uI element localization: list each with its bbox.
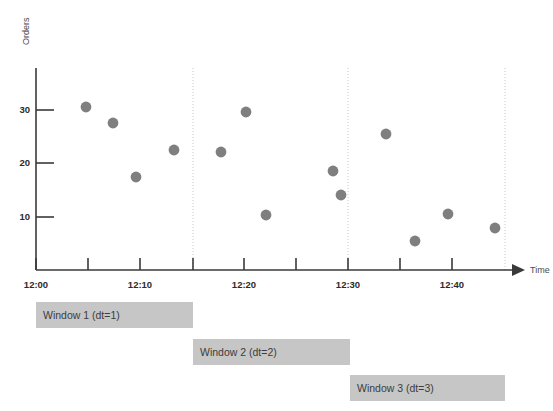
data-point [443, 209, 454, 220]
window-boundary-lines [193, 68, 505, 270]
y-tick-label-10: 10 [10, 212, 30, 222]
data-point [241, 107, 252, 118]
x-tick-label-1240: 12:40 [440, 280, 464, 290]
x-tick-label-1220: 12:20 [232, 280, 256, 290]
y-tick-label-30: 30 [10, 105, 30, 115]
data-point [261, 210, 272, 221]
y-axis [36, 68, 54, 270]
y-axis-title: Orders [22, 17, 31, 45]
x-axis [36, 258, 525, 276]
data-point [81, 102, 92, 113]
data-point [328, 166, 339, 177]
window-bar-1: Window 1 (dt=1) [36, 302, 193, 328]
data-point [216, 147, 227, 158]
y-tick-label-20: 20 [10, 158, 30, 168]
window-bar-3-label: Window 3 (dt=3) [357, 383, 434, 394]
x-axis-title: Time [530, 266, 550, 275]
data-point [490, 223, 501, 234]
x-axis-arrow-icon [512, 264, 525, 276]
window-bar-3: Window 3 (dt=3) [350, 375, 505, 401]
chart-figure: Orders Time 30 20 10 12:00 12:10 12:20 1… [0, 0, 553, 411]
data-point [108, 118, 119, 129]
data-point [336, 190, 347, 201]
window-bar-2: Window 2 (dt=2) [193, 339, 350, 365]
data-point [410, 236, 421, 247]
window-bar-2-label: Window 2 (dt=2) [200, 347, 277, 358]
scatter-points [81, 102, 501, 247]
x-tick-label-1230: 12:30 [336, 280, 360, 290]
x-tick-label-1210: 12:10 [128, 280, 152, 290]
data-point [131, 172, 142, 183]
window-bar-1-label: Window 1 (dt=1) [43, 310, 120, 321]
data-point [169, 145, 180, 156]
x-tick-label-1200: 12:00 [24, 280, 48, 290]
data-point [381, 129, 392, 140]
